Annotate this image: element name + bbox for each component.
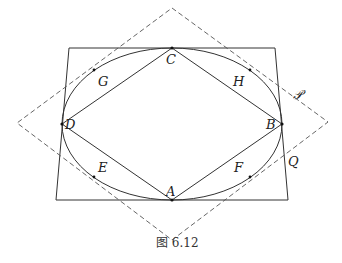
label-c: C <box>166 52 176 67</box>
point-b-dot <box>280 122 283 125</box>
tangent-dot-f <box>249 176 252 179</box>
label-f: F <box>233 160 244 175</box>
point-c-dot <box>170 46 173 49</box>
label-e: E <box>97 160 108 175</box>
figure-canvas: C A D B G H E F 𝒫 Q 图 6.12 <box>0 0 342 263</box>
label-a: A <box>165 184 175 199</box>
label-h: H <box>232 74 245 89</box>
tangent-dot-e <box>93 176 96 179</box>
label-d: D <box>64 117 76 132</box>
tangent-dot-h <box>249 69 252 72</box>
label-p: 𝒫 <box>293 87 306 102</box>
label-g: G <box>98 74 108 89</box>
label-q: Q <box>288 154 299 169</box>
tangent-dot-g <box>93 69 96 72</box>
quadrilateral-q <box>56 48 288 200</box>
label-b: B <box>265 117 276 132</box>
figure-caption: 图 6.12 <box>156 236 199 250</box>
point-d-dot <box>60 122 63 125</box>
